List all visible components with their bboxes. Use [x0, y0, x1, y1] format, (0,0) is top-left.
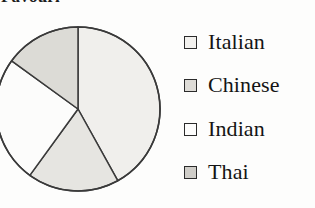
legend-swatch-italian [184, 36, 197, 49]
legend-label-thai: Thai [208, 161, 249, 183]
legend-item-thai[interactable]: Thai [184, 159, 249, 185]
legend-label-indian: Indian [208, 118, 265, 140]
legend-label-chinese: Chinese [208, 74, 280, 96]
legend-swatch-thai [184, 166, 197, 179]
legend-item-indian[interactable]: Indian [184, 116, 265, 142]
legend-item-italian[interactable]: Italian [184, 29, 265, 55]
legend-swatch-indian [184, 123, 197, 136]
legend: Italian Chinese Indian Thai [184, 19, 315, 199]
legend-label-italian: Italian [208, 31, 265, 53]
pie-chart [0, 0, 175, 208]
pie-chart-svg [0, 0, 175, 208]
legend-swatch-chinese [184, 79, 197, 92]
figure-canvas: Favourite food Italian Chinese Indian Th… [0, 0, 315, 208]
legend-item-chinese[interactable]: Chinese [184, 72, 280, 98]
